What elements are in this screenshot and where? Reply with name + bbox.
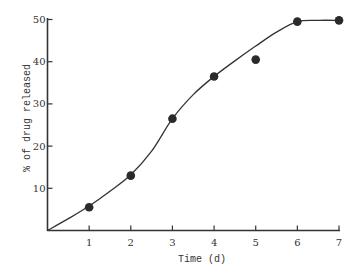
x-tick-label: 5 [253, 237, 259, 248]
y-tick-label: 20 [33, 141, 46, 152]
data-point [251, 55, 260, 64]
y-tick-label: 50 [33, 14, 46, 25]
x-ticks: 1234567 [86, 226, 342, 248]
y-axis-title: % of drug released [22, 64, 33, 172]
x-tick-label: 2 [128, 237, 134, 248]
y-ticks: 1020304050 [33, 14, 53, 194]
data-point [168, 114, 177, 123]
x-axis-title: Time (d) [178, 254, 226, 265]
data-point [210, 72, 219, 81]
axes [47, 18, 340, 231]
y-tick-label: 10 [33, 183, 46, 194]
fitted-curve [48, 20, 340, 230]
data-point [126, 171, 135, 180]
x-tick-label: 7 [336, 237, 342, 248]
drug-release-chart: 1020304050 1234567 % of drug released Ti… [0, 0, 361, 275]
x-tick-label: 3 [169, 237, 175, 248]
data-point [335, 16, 344, 25]
x-tick-label: 6 [294, 237, 300, 248]
y-tick-label: 30 [33, 98, 46, 109]
data-point [85, 203, 94, 212]
x-tick-label: 4 [211, 237, 217, 248]
data-points [85, 16, 343, 212]
data-point [293, 17, 302, 26]
y-tick-label: 40 [33, 56, 46, 67]
x-tick-label: 1 [86, 237, 92, 248]
